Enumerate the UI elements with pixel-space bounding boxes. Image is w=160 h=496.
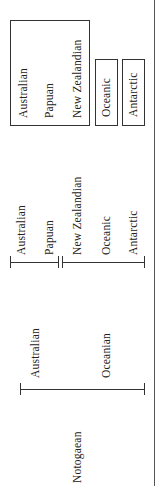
label-oceanic-mid: Oceanic [101,216,113,255]
label-papuan-boxed: Papuan [44,83,56,118]
bracket-group-a-cap-left [10,256,11,268]
label-oceanian-broad: Oceanian [101,333,113,378]
bracket-broad-cap-left [20,383,21,395]
label-australian-boxed: Australian [18,68,30,118]
label-australian-mid: Australian [16,205,28,255]
label-notogaean: Notogaean [72,431,84,483]
label-new-zealandian-mid: New Zealandian [72,177,84,255]
bracket-group-b-line [63,262,145,263]
label-oceanic-boxed: Oceanic [101,78,113,117]
label-papuan-mid: Papuan [44,220,56,255]
bracket-broad-line [21,389,145,390]
label-new-zealandian-boxed: New Zealandian [72,40,84,118]
vertical-rule [154,0,155,486]
bracket-group-b-cap-right [144,256,145,268]
label-antarctic-boxed: Antarctic [128,72,140,117]
bracket-group-b-cap-left [62,256,63,268]
bracket-group-a-line [11,262,59,263]
bracket-broad-cap-right [144,383,145,395]
label-australian-broad: Australian [30,328,42,378]
label-antarctic-mid: Antarctic [128,210,140,255]
bracket-group-a-cap-right [58,256,59,268]
